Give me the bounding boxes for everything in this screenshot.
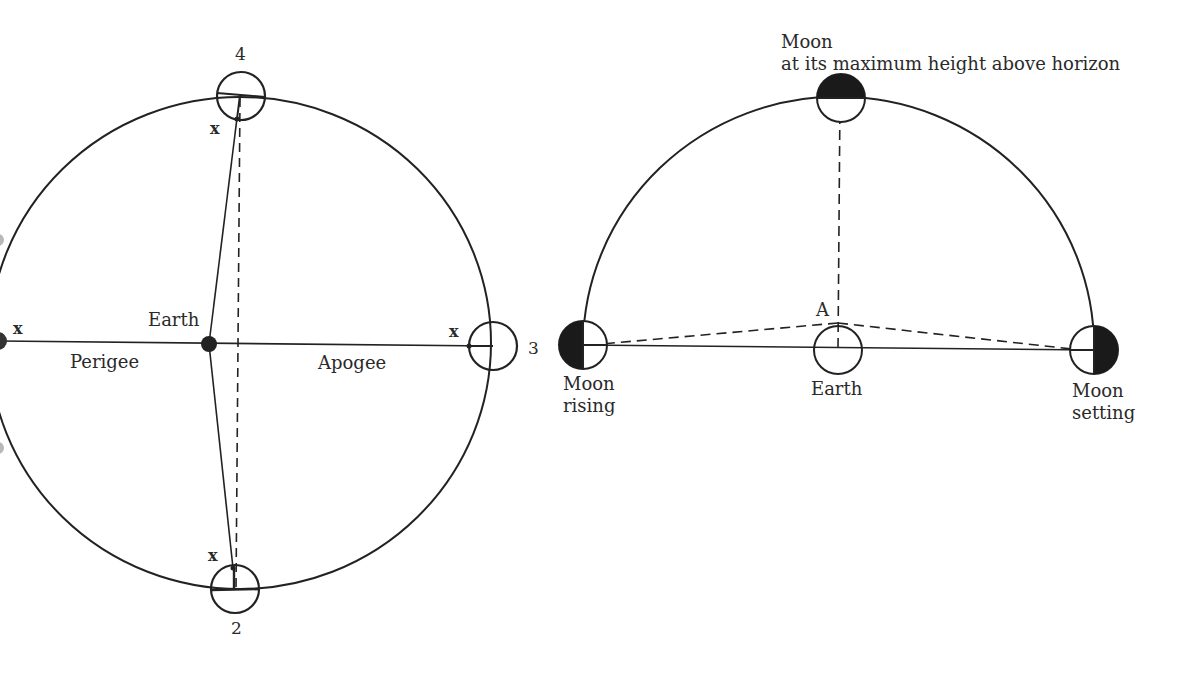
label-2: 2: [231, 618, 242, 638]
moon-rising: [559, 321, 607, 369]
sight-line-bottom: [209, 344, 233, 568]
label-x-bottom: x: [208, 546, 218, 565]
lunar-parallax-diagram: 4 x Earth Perigee Apogee x x 3 x 2: [0, 0, 1204, 674]
orbit-diagram: 4 x Earth Perigee Apogee x x 3 x 2: [0, 44, 539, 638]
label-earth-right: Earth: [811, 378, 863, 399]
label-x-right: x: [449, 322, 459, 341]
label-3: 3: [528, 338, 539, 358]
moon-setting: [1070, 326, 1118, 374]
label-x-left: x: [13, 319, 23, 338]
label-moon-top: Moon: [781, 31, 833, 52]
label-x-top: x: [210, 119, 220, 138]
label-setting-1: Moon: [1072, 380, 1124, 401]
label-rising-1: Moon: [563, 373, 615, 394]
moon-ghost-upper: [0, 234, 4, 246]
moon-max-height: [817, 74, 865, 122]
label-point-a: A: [815, 299, 830, 320]
horizon-diagram: Moon at its maximum height above horizon…: [559, 31, 1135, 423]
label-rising-2: rising: [563, 395, 615, 416]
earth-circle: [814, 326, 862, 374]
moon-position-3: [467, 322, 518, 370]
apsidal-line: [0, 341, 490, 346]
label-moon-top-desc: at its maximum height above horizon: [781, 53, 1121, 74]
label-setting-2: setting: [1072, 402, 1135, 423]
moon-perigee: [0, 332, 7, 350]
sight-line-top: [209, 118, 237, 344]
label-apogee: Apogee: [317, 352, 386, 373]
moon-position-2: [211, 565, 259, 613]
moon-ghost-lower: [0, 442, 4, 454]
earth-dot: [201, 336, 217, 352]
dashed-line-to-setting: [838, 323, 1090, 351]
label-4: 4: [235, 44, 246, 64]
label-perigee: Perigee: [70, 351, 139, 372]
label-earth: Earth: [148, 309, 200, 330]
dashed-line-to-rising: [590, 323, 838, 345]
dashed-vertical: [838, 98, 840, 350]
